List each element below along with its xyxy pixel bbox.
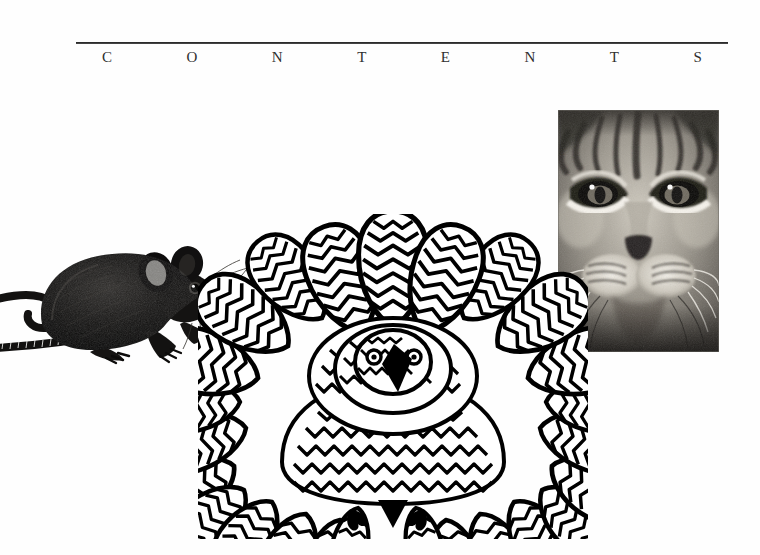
title-letter-t-1: T	[357, 49, 366, 66]
title-letter-s: S	[693, 49, 701, 66]
title-letter-n-2: N	[524, 49, 535, 66]
title-letter-c: C	[102, 49, 112, 66]
feathered-bird-mandala	[198, 214, 588, 539]
page-title: C O N T E N T S	[76, 49, 728, 66]
title-letter-o: O	[187, 49, 198, 66]
title-letter-e: E	[441, 49, 450, 66]
title-letter-t-2: T	[610, 49, 619, 66]
title-letter-n-1: N	[272, 49, 283, 66]
contents-page: C O N T E N T S	[0, 0, 760, 555]
heading-rule	[76, 42, 728, 44]
